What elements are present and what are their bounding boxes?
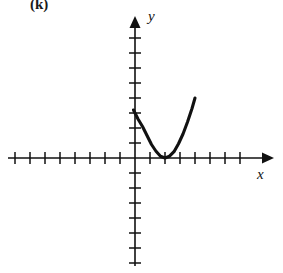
x-axis-label: x [257,166,264,183]
figure-container: (k) [0,0,283,273]
parabola-curve [134,98,196,158]
arrow-right-icon [262,153,274,164]
coordinate-plane-plot [0,0,283,273]
y-axis-label: y [148,8,155,25]
arrow-up-icon [130,16,141,28]
part-label: (k) [30,0,48,13]
